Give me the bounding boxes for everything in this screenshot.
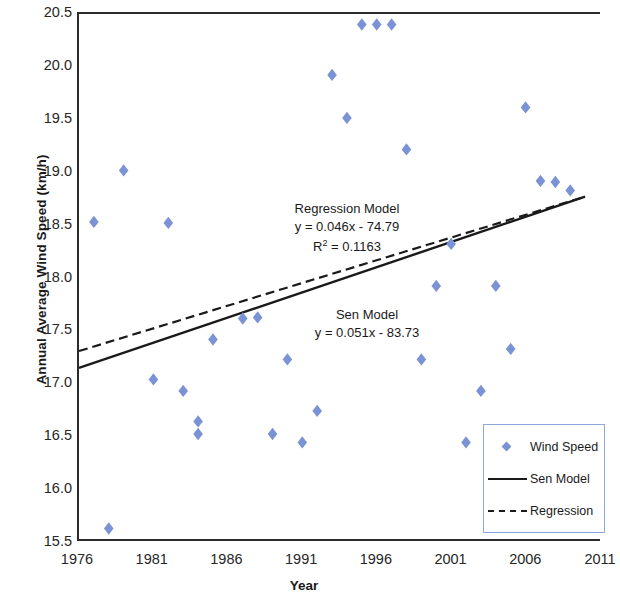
x-axis-tick-labels: 19761981198619911996200120062011 — [0, 551, 608, 575]
data-point-marker — [119, 164, 129, 176]
data-point-marker — [491, 280, 501, 292]
data-point-marker — [253, 311, 263, 323]
legend-dashed-line-icon — [488, 510, 527, 512]
data-point-marker — [521, 101, 531, 113]
y-axis-tick-label: 18.0 — [18, 269, 72, 285]
y-axis-tick-label: 19.5 — [18, 110, 72, 126]
data-point-marker — [387, 18, 397, 30]
data-point-marker — [193, 428, 203, 440]
data-point-marker — [551, 176, 561, 188]
legend-item-label: Wind Speed — [530, 440, 598, 454]
data-point-marker — [372, 18, 382, 30]
legend-solid-line-icon — [488, 478, 527, 480]
chart-legend: Wind SpeedSen ModelRegression — [483, 424, 605, 533]
r2-value: = 0.1163 — [327, 239, 381, 254]
y-axis-tick-label: 20.0 — [18, 57, 72, 73]
data-point-marker — [193, 415, 203, 427]
data-point-marker — [89, 216, 99, 228]
y-axis-tick-label: 17.0 — [18, 374, 72, 390]
x-axis-tick-label: 1991 — [266, 551, 336, 567]
legend-diamond-icon — [502, 442, 512, 452]
x-axis-tick-label: 1976 — [42, 551, 112, 567]
data-point-marker — [417, 353, 427, 365]
legend-item[interactable]: Regression — [484, 499, 606, 523]
regression-annotation-title: Regression Model — [257, 200, 437, 218]
data-point-marker — [327, 69, 337, 81]
data-point-marker — [163, 217, 173, 229]
y-axis-tick-label: 18.5 — [18, 216, 72, 232]
r2-prefix: R — [313, 239, 322, 254]
data-point-marker — [178, 385, 188, 397]
y-axis-tick-labels: 15.516.016.517.017.518.018.519.019.520.0… — [10, 0, 72, 608]
sen-annotation-title: Sen Model — [277, 306, 457, 324]
data-point-marker — [536, 175, 546, 187]
data-point-marker — [149, 373, 159, 385]
data-point-marker — [342, 112, 352, 124]
y-axis-tick-label: 15.5 — [18, 533, 72, 549]
x-axis-tick-label: 2001 — [416, 551, 486, 567]
regression-annotation-r2: R2 = 0.1163 — [257, 237, 437, 257]
data-point-marker — [431, 280, 441, 292]
data-point-marker — [104, 522, 114, 534]
legend-item-label: Regression — [530, 504, 593, 518]
legend-key — [484, 467, 530, 491]
y-axis-tick-label: 19.0 — [18, 163, 72, 179]
x-axis-tick-label: 2011 — [565, 551, 620, 567]
data-point-marker — [283, 353, 293, 365]
data-point-marker — [476, 385, 486, 397]
data-point-marker — [506, 343, 516, 355]
data-point-marker — [402, 143, 412, 155]
sen-annotation-equation: y = 0.051x - 83.73 — [277, 324, 457, 342]
regression-annotation-equation: y = 0.046x - 74.79 — [257, 218, 437, 236]
y-axis-tick-label: 16.0 — [18, 480, 72, 496]
y-axis-tick-label: 16.5 — [18, 427, 72, 443]
data-point-marker — [565, 184, 575, 196]
y-axis-tick-label: 17.5 — [18, 321, 72, 337]
legend-item[interactable]: Wind Speed — [484, 435, 606, 459]
legend-key — [484, 499, 530, 523]
x-axis-title: Year — [0, 578, 608, 593]
data-point-marker — [297, 436, 307, 448]
x-axis-tick-label: 2006 — [490, 551, 560, 567]
data-point-marker — [268, 428, 278, 440]
legend-item-label: Sen Model — [530, 472, 590, 486]
x-axis-tick-label: 1996 — [341, 551, 411, 567]
regression-model-annotation: Regression Model y = 0.046x - 74.79 R2 =… — [257, 200, 437, 257]
x-axis-tick-label: 1981 — [117, 551, 187, 567]
x-axis-tick-label: 1986 — [191, 551, 261, 567]
data-point-marker — [312, 405, 322, 417]
data-point-marker — [357, 18, 367, 30]
data-point-marker — [461, 436, 471, 448]
legend-key — [484, 435, 530, 459]
y-axis-tick-label: 20.5 — [18, 4, 72, 20]
data-point-marker — [208, 333, 218, 345]
legend-item[interactable]: Sen Model — [484, 467, 606, 491]
sen-model-annotation: Sen Model y = 0.051x - 83.73 — [277, 306, 457, 343]
